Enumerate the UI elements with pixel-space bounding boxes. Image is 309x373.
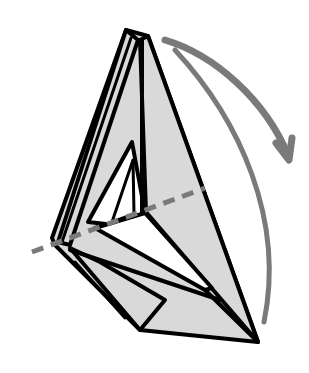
diagram-canvas (0, 0, 309, 373)
origami-diagram (0, 0, 309, 373)
